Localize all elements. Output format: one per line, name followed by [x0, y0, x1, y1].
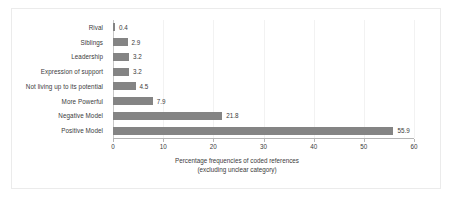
category-label: Siblings [12, 35, 108, 50]
bar-row: 7.9 [113, 94, 414, 109]
x-axis-title-line-1: Percentage frequencies of coded referenc… [72, 156, 402, 165]
x-axis-tick [213, 139, 214, 142]
bar-row: 55.9 [113, 123, 414, 138]
bar-row: 4.5 [113, 79, 414, 94]
bar-value-label: 21.8 [226, 112, 238, 119]
bar-row: 2.9 [113, 35, 414, 50]
bar-value-label: 7.9 [157, 98, 166, 105]
chart-plot-wrapper: RivalSiblingsLeadershipExpression of sup… [12, 9, 440, 188]
bar-value-label: 3.2 [133, 53, 142, 60]
x-axis-title: Percentage frequencies of coded referenc… [72, 156, 402, 174]
x-axis-tick [414, 139, 415, 142]
category-label: Expression of support [12, 64, 108, 79]
bar-row: 3.2 [113, 50, 414, 65]
bar [113, 38, 128, 46]
x-axis-tick [264, 139, 265, 142]
bar-value-label: 4.5 [140, 83, 149, 90]
chart-frame: RivalSiblingsLeadershipExpression of sup… [11, 8, 441, 189]
category-label: Positive Model [12, 123, 108, 138]
x-axis-tick [113, 139, 114, 142]
category-label: Rival [12, 20, 108, 35]
x-axis-tick-labels: 0102030405060 [113, 143, 414, 153]
bar [113, 23, 115, 31]
bar-series: 0.42.93.23.24.57.921.855.9 [113, 20, 414, 138]
plot-area: 0.42.93.23.24.57.921.855.9 [113, 20, 414, 138]
x-axis-tick [364, 139, 365, 142]
x-axis-title-line-2: (excluding unclear category) [72, 165, 402, 174]
category-label: Negative Model [12, 109, 108, 124]
bar-value-label: 55.9 [397, 127, 409, 134]
bar [113, 53, 129, 61]
bar-value-label: 0.4 [119, 24, 128, 31]
category-axis-labels: RivalSiblingsLeadershipExpression of sup… [12, 20, 108, 138]
bar [113, 112, 222, 120]
x-axis-tick [314, 139, 315, 142]
x-axis-ticks [113, 139, 414, 142]
x-axis-tick [163, 139, 164, 142]
bar [113, 68, 129, 76]
bar-value-label: 3.2 [133, 68, 142, 75]
bar-row: 3.2 [113, 64, 414, 79]
category-label: Not living up to its potential [12, 79, 108, 94]
gridline [414, 20, 415, 138]
bar-row: 0.4 [113, 20, 414, 35]
x-axis-tick-label: 20 [210, 143, 217, 150]
x-axis-tick-label: 10 [160, 143, 167, 150]
bar [113, 127, 393, 135]
bar [113, 97, 153, 105]
bar [113, 82, 136, 90]
x-axis-tick-label: 30 [260, 143, 267, 150]
x-axis-tick-label: 0 [111, 143, 115, 150]
x-axis-tick-label: 60 [410, 143, 417, 150]
category-label: More Powerful [12, 94, 108, 109]
category-label: Leadership [12, 50, 108, 65]
x-axis-tick-label: 40 [310, 143, 317, 150]
x-axis-tick-label: 50 [360, 143, 367, 150]
bar-value-label: 2.9 [132, 39, 141, 46]
bar-row: 21.8 [113, 109, 414, 124]
